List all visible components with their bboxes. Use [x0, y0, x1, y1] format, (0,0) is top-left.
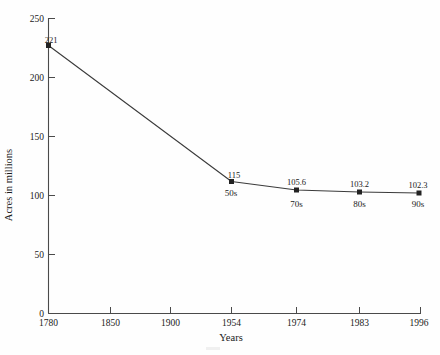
y-tick-label-0: 0 [39, 309, 44, 319]
data-label-103-2: 103.2 [350, 179, 369, 189]
x-tick-label-1780: 1780 [39, 318, 58, 328]
data-label-221: 221 [45, 35, 58, 45]
data-point-90s [417, 191, 422, 196]
data-point-80s [357, 190, 362, 195]
x-tick-label-1900: 1900 [161, 318, 180, 328]
x-tick-label-1974: 1974 [287, 318, 306, 328]
x-tick-label-1983: 1983 [350, 318, 369, 328]
era-label-70s: 70s [290, 199, 303, 209]
data-label-115: 115 [228, 170, 240, 180]
y-tick-label-50: 50 [35, 250, 45, 260]
era-label-50s: 50s [225, 188, 238, 198]
data-label-102-3: 102.3 [408, 180, 427, 190]
era-label-80s: 80s [353, 199, 366, 209]
x-tick-label-1954: 1954 [222, 318, 241, 328]
x-axis-title: Years [219, 332, 242, 343]
data-point-70s [294, 188, 299, 193]
y-tick-label-200: 200 [30, 73, 45, 83]
chart-page: 0 50 100 150 200 250 1780 1850 1900 1954… [0, 0, 440, 355]
y-axis-title: Acres in millions [3, 149, 14, 221]
x-tick-label-1850: 1850 [101, 318, 120, 328]
y-tick-label-250: 250 [30, 14, 45, 24]
y-tick-label-150: 150 [30, 132, 45, 142]
data-label-105-6: 105.6 [287, 177, 306, 187]
scan-artifact [206, 347, 220, 350]
era-label-90s: 90s [412, 199, 425, 209]
x-tick-label-1996: 1996 [410, 318, 429, 328]
line-chart: 0 50 100 150 200 250 1780 1850 1900 1954… [0, 0, 440, 355]
y-tick-label-100: 100 [30, 191, 45, 201]
